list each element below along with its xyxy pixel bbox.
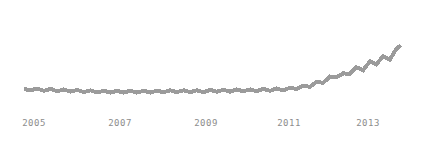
sparkline-chart: 20052007200920112013: [0, 0, 422, 147]
chart-plot-area: [0, 0, 422, 115]
chart-svg-canvas: [0, 0, 422, 115]
x-axis-tick-label: 2013: [356, 118, 380, 129]
x-axis-tick-label: 2005: [22, 118, 46, 129]
x-axis-tick-label: 2009: [194, 118, 218, 129]
data-series-line: [24, 45, 401, 92]
x-axis-tick-label: 2007: [108, 118, 132, 129]
x-axis-tick-label: 2011: [277, 118, 301, 129]
